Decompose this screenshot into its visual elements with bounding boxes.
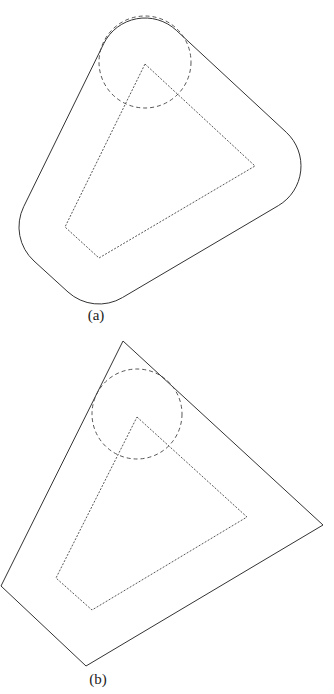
caption-a: (a) xyxy=(88,307,105,324)
sharp-offset-outline xyxy=(1,341,323,666)
figure-canvas xyxy=(0,0,334,694)
caption-b: (b) xyxy=(89,671,107,688)
offset-circle-dashed xyxy=(99,16,191,108)
rounded-offset-outline xyxy=(19,18,301,304)
inner-polygon-dashed xyxy=(56,417,247,610)
figure-a xyxy=(19,16,301,304)
inner-polygon-dashed xyxy=(65,64,255,258)
figure-b xyxy=(1,341,323,666)
